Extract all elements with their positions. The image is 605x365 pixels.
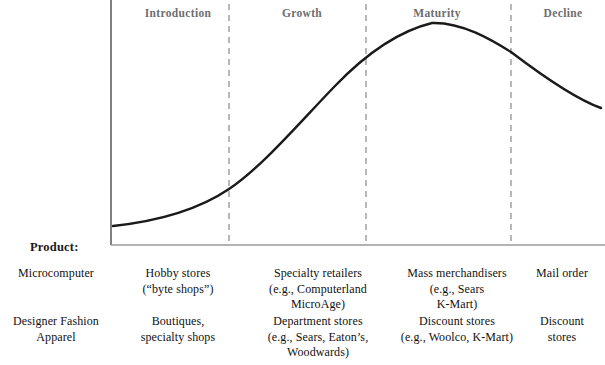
cell-line: specialty shops	[120, 330, 236, 346]
cell-product-name: Designer Fashion Apparel	[2, 314, 110, 345]
product-life-cycle-diagram: Introduction Growth Maturity Decline Pro…	[0, 0, 605, 365]
cell-growth-channel: Specialty retailers (e.g., Computerland …	[242, 266, 394, 313]
cell-line: stores	[520, 330, 604, 346]
cell-line: Microcomputer	[2, 266, 110, 282]
cell-line: Mass merchandisers	[380, 266, 534, 282]
cell-introduction-channel: Boutiques, specialty shops	[120, 314, 236, 345]
cell-line: (e.g., Computerland	[242, 282, 394, 298]
cell-line: Hobby stores	[120, 266, 236, 282]
cell-line: Boutiques,	[120, 314, 236, 330]
product-row-designer-fashion-apparel: Designer Fashion Apparel Boutiques, spec…	[0, 314, 605, 362]
cell-line: (“byte shops”)	[120, 282, 236, 298]
cell-line: Mail order	[520, 266, 604, 282]
cell-maturity-channel: Discount stores (e.g., Woolco, K-Mart)	[380, 314, 534, 345]
cell-line: (e.g., Sears	[380, 282, 534, 298]
cell-introduction-channel: Hobby stores (“byte shops”)	[120, 266, 236, 297]
life-cycle-curve-plot	[0, 0, 605, 250]
cell-line: MicroAge)	[242, 297, 394, 313]
cell-product-name: Microcomputer	[2, 266, 110, 282]
product-row-microcomputer: Microcomputer Hobby stores (“byte shops”…	[0, 266, 605, 314]
cell-growth-channel: Department stores (e.g., Sears, Eaton’s,…	[242, 314, 394, 361]
cell-line: Discount stores	[380, 314, 534, 330]
cell-line: (e.g., Sears, Eaton’s,	[242, 330, 394, 346]
cell-decline-channel: Discount stores	[520, 314, 604, 345]
cell-line: Designer Fashion	[2, 314, 110, 330]
product-life-cycle-curve	[113, 23, 601, 226]
product-row-label: Product:	[30, 240, 79, 255]
cell-line: (e.g., Woolco, K-Mart)	[380, 330, 534, 346]
cell-line: Department stores	[242, 314, 394, 330]
cell-maturity-channel: Mass merchandisers (e.g., Sears K-Mart)	[380, 266, 534, 313]
cell-line: Apparel	[2, 330, 110, 346]
cell-line: Discount	[520, 314, 604, 330]
cell-decline-channel: Mail order	[520, 266, 604, 282]
cell-line: Woodwards)	[242, 345, 394, 361]
cell-line: K-Mart)	[380, 297, 534, 313]
cell-line: Specialty retailers	[242, 266, 394, 282]
